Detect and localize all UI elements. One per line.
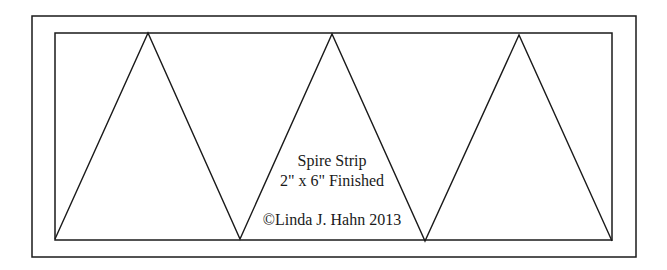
pattern-title: Spire Strip <box>282 151 382 171</box>
inner-border <box>55 33 612 240</box>
pattern-size-label: 2" x 6" Finished <box>272 171 392 191</box>
copyright-notice: ©Linda J. Hahn 2013 <box>252 210 412 230</box>
